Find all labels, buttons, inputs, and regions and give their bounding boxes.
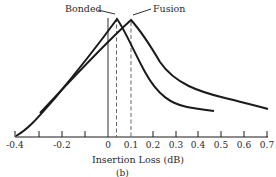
x-axis-label: Insertion Loss (dB) (92, 154, 184, 165)
x-tick-label: 0 (105, 140, 111, 150)
x-tick-label: -0.4 (6, 140, 23, 150)
x-tick-label: 0.6 (237, 140, 251, 150)
x-tick-label: 0.4 (191, 140, 205, 150)
x-tick-label: 0.1 (124, 140, 138, 150)
insertion-loss-chart (0, 0, 276, 177)
x-tick-label: 0.2 (146, 140, 160, 150)
fusion-curve (40, 20, 268, 113)
bonded-curve (16, 19, 214, 136)
x-axis-ticks (15, 131, 267, 137)
x-tick-label: 0.7 (260, 140, 274, 150)
x-tick-label: -0.2 (53, 140, 70, 150)
figure-caption: (b) (116, 168, 129, 177)
fusion-annotation-arrow (133, 9, 151, 15)
bonded-annotation-label: Bonded (65, 3, 102, 14)
x-tick-label: 0.5 (214, 140, 228, 150)
x-tick-label: 0.3 (169, 140, 183, 150)
fusion-annotation-label: Fusion (153, 3, 185, 14)
